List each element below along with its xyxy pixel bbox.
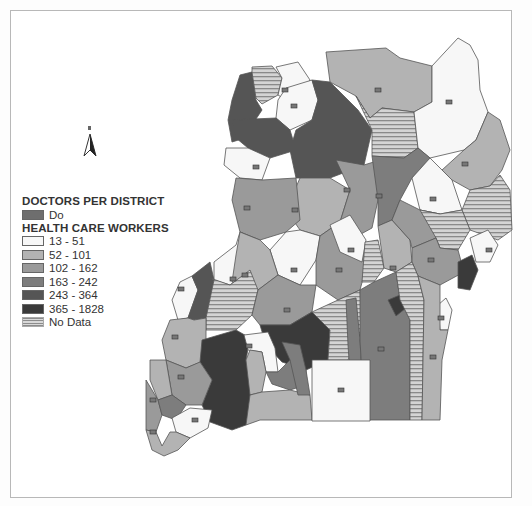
seat-marker	[486, 248, 492, 252]
seat-marker	[376, 194, 382, 198]
legend-doctors-title: DOCTORS PER DISTRICT	[22, 195, 202, 208]
legend-item-243-364: 243 - 364	[22, 289, 202, 303]
legend-label: 243 - 364	[49, 289, 98, 301]
legend-label: 13 - 51	[49, 235, 85, 247]
district-busia-dark	[458, 255, 478, 290]
seat-marker	[291, 104, 297, 108]
legend-item-52-101: 52 - 101	[22, 248, 202, 262]
legend-label: No Data	[49, 316, 91, 328]
legend-swatch	[22, 304, 44, 314]
seat-marker	[230, 277, 236, 281]
seat-marker	[282, 88, 288, 92]
seat-marker	[375, 88, 381, 92]
seat-marker	[244, 206, 250, 210]
legend-swatch	[22, 250, 44, 260]
seat-marker	[172, 335, 178, 339]
legend-item-365-1828: 365 - 1828	[22, 302, 202, 316]
seat-marker	[150, 398, 156, 402]
seat-marker	[338, 388, 344, 392]
seat-marker	[348, 248, 354, 252]
seat-marker	[292, 208, 298, 212]
legend-item-163-242: 163 - 242	[22, 275, 202, 289]
seat-marker	[253, 165, 259, 169]
seat-marker	[430, 197, 436, 201]
seat-marker	[344, 188, 350, 192]
seat-marker	[291, 268, 297, 272]
seat-marker	[438, 316, 444, 320]
legend-swatch	[22, 236, 44, 246]
seat-marker	[428, 258, 434, 262]
district-masindi	[232, 178, 300, 240]
seat-marker	[242, 273, 248, 277]
seat-marker	[430, 355, 436, 359]
legend-item-102-162: 102 - 162	[22, 262, 202, 276]
legend-label: 163 - 242	[49, 276, 98, 288]
north-arrow	[82, 124, 98, 160]
seat-marker	[192, 418, 198, 422]
seat-marker	[246, 344, 252, 348]
seat-marker	[390, 266, 396, 270]
legend-item-doctors: Do	[22, 208, 202, 222]
legend-swatch-doctors	[22, 210, 44, 220]
seat-marker	[378, 347, 384, 351]
legend-label: 365 - 1828	[49, 303, 104, 315]
map-legend: DOCTORS PER DISTRICT Do HEALTH CARE WORK…	[22, 195, 202, 329]
seat-marker	[150, 430, 156, 434]
seat-marker	[446, 100, 452, 104]
legend-swatch-hatch	[22, 317, 44, 327]
district-nw-hatch	[252, 66, 282, 104]
legend-item-no-data: No Data	[22, 316, 202, 330]
legend-swatch	[22, 290, 44, 300]
seat-marker	[284, 308, 290, 312]
legend-hcw-title: HEALTH CARE WORKERS	[22, 222, 202, 235]
legend-label: 52 - 101	[49, 249, 91, 261]
legend-swatch	[22, 263, 44, 273]
district-rakai	[246, 350, 266, 395]
legend-swatch	[22, 277, 44, 287]
legend-item-13-51: 13 - 51	[22, 235, 202, 249]
legend-label: 102 - 162	[49, 262, 98, 274]
north-arrow-icon	[82, 124, 98, 160]
seat-marker	[178, 375, 184, 379]
legend-label: Do	[49, 209, 64, 221]
seat-marker	[462, 162, 468, 166]
seat-marker	[336, 268, 342, 272]
